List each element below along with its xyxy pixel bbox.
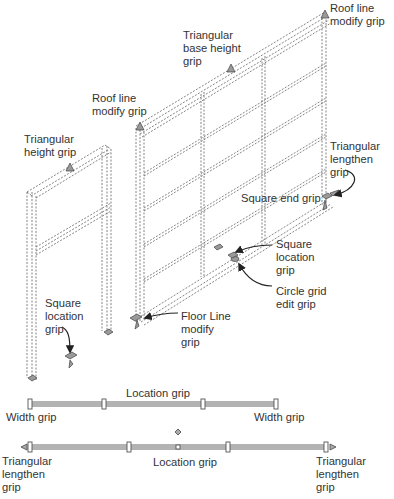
label-roof-line-left: Roof line modify grip xyxy=(92,92,147,118)
square-location-grip-left-icon[interactable] xyxy=(65,352,77,359)
label-floor-line-modify: Floor Line modify grip xyxy=(181,310,231,349)
label-square-location-left: Square location grip xyxy=(45,297,84,336)
triangular-lengthen-plan-left-icon[interactable] xyxy=(21,444,27,450)
label-triangular-lengthen: Triangular lengthen grip xyxy=(330,140,380,179)
label-circle-grid-edit: Circle grid edit grip xyxy=(276,285,326,311)
label-roof-line-top: Roof line modify grip xyxy=(330,2,385,28)
location-grip-handle-2[interactable] xyxy=(201,399,205,409)
label-triangular-height: Triangular height grip xyxy=(24,133,76,159)
label-triangular-base-height: Triangular base height grip xyxy=(183,29,241,68)
location-grip-handle-1[interactable] xyxy=(102,399,106,409)
width-grip-right-handle[interactable] xyxy=(274,399,278,409)
label-square-end: Square end grip xyxy=(241,192,321,205)
plan-view-lengthen xyxy=(21,429,336,452)
label-triangular-lengthen-plan-right: Triangular lengthen grip xyxy=(316,455,366,494)
curtain-wall-grip-diagram xyxy=(0,0,394,499)
label-location-grip-2: Location grip xyxy=(153,456,217,469)
door-bottom-grip-right-icon xyxy=(104,329,113,335)
width-grip-left-handle[interactable] xyxy=(28,399,32,409)
label-triangular-lengthen-plan-left: Triangular lengthen grip xyxy=(2,455,52,494)
roof-line-grip-left-icon[interactable] xyxy=(136,122,144,130)
label-square-location-right: Square location grip xyxy=(276,238,315,277)
door-frame xyxy=(27,145,111,380)
plan-view-width xyxy=(28,399,278,409)
label-location-grip-1: Location grip xyxy=(126,387,190,400)
square-location-grip-right-icon[interactable] xyxy=(214,244,223,250)
triangular-lengthen-plan-right-icon[interactable] xyxy=(330,444,336,450)
label-width-grip-left: Width grip xyxy=(6,411,56,424)
label-width-grip-right: Width grip xyxy=(254,411,304,424)
location-diamond-icon[interactable] xyxy=(175,429,181,435)
